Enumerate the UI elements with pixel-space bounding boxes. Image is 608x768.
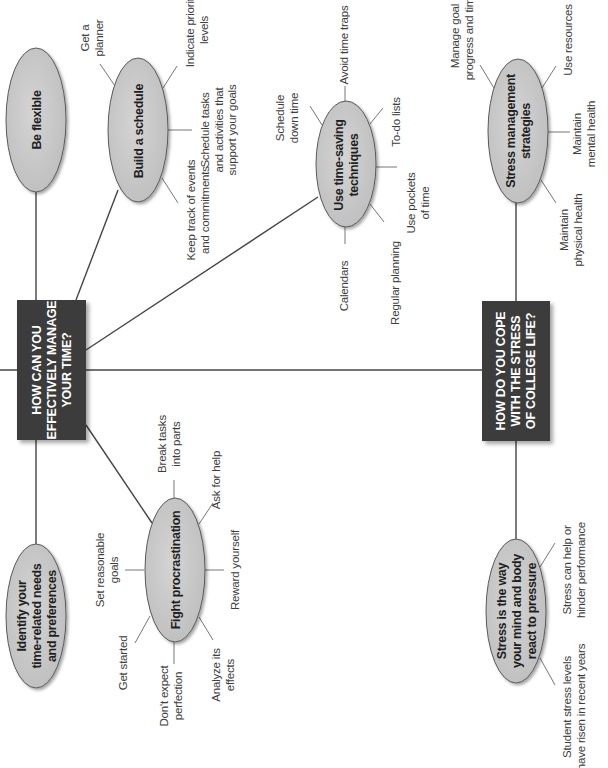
mind-map-canvas: HOW CAN YOU EFFECTIVELY MANAGE YOUR TIME… [0,0,608,768]
connector-fight-procrastination [86,425,152,523]
connector-build-schedule [76,190,118,300]
question-stress-text: HOW DO YOU COPE WITH THE STRESS OF COLLE… [494,311,539,430]
question-box-time-management: HOW CAN YOU EFFECTIVELY MANAGE YOUR TIME… [17,300,86,440]
topic-ellipses [6,48,548,688]
question-time-management-text: HOW CAN YOU EFFECTIVELY MANAGE YOUR TIME… [29,301,74,440]
question-box-stress: HOW DO YOU COPE WITH THE STRESS OF COLLE… [482,301,550,441]
